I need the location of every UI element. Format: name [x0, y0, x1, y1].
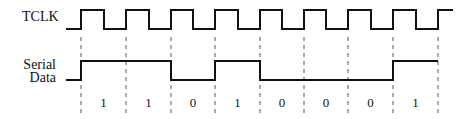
bit-label: 0 — [361, 96, 381, 109]
bit-label: 1 — [228, 96, 248, 109]
bit-label: 0 — [183, 96, 203, 109]
tclk-label: TCLK — [22, 10, 59, 24]
bit-label: 0 — [316, 96, 336, 109]
bit-label: 1 — [406, 96, 426, 109]
bit-label: 1 — [94, 96, 114, 109]
tclk-waveform — [66, 10, 453, 29]
bit-label: 1 — [139, 96, 159, 109]
serial-data-waveform — [66, 61, 438, 80]
bit-label: 0 — [272, 96, 292, 109]
serial-data-label-line2: Data — [22, 71, 56, 85]
